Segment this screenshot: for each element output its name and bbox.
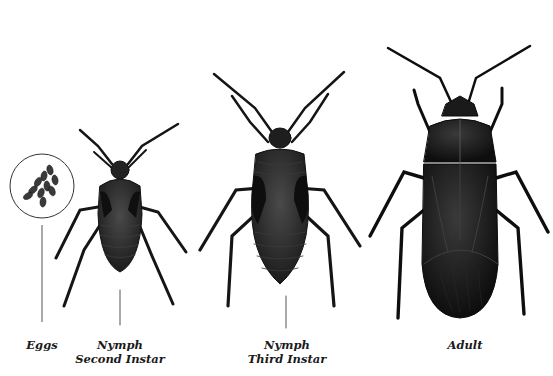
nymph-third-instar-illustration [200,72,360,328]
nymph-second-instar-illustration [56,124,186,325]
nymph-third-instar-label-line1: Nymph [248,338,326,352]
nymph-second-instar-label-line2: Second Instar [75,352,165,366]
nymph-third-instar-label-line2: Third Instar [248,352,326,366]
nymph-second-instar-label: Nymph Second Instar [75,338,165,366]
adult-label: Adult [447,338,482,352]
life-cycle-figure: Eggs Nymph Second Instar Nymph Third Ins… [0,0,553,376]
nymph-third-instar-label: Nymph Third Instar [248,338,326,366]
nymph-second-instar-label-line1: Nymph [75,338,165,352]
illustration [0,0,553,376]
adult-label-line1: Adult [447,338,482,352]
eggs-label: Eggs [26,338,57,352]
adult-illustration [370,46,548,318]
egg-cluster-icon [22,164,59,207]
eggs-label-line1: Eggs [26,338,57,352]
eggs-circle [10,154,74,218]
